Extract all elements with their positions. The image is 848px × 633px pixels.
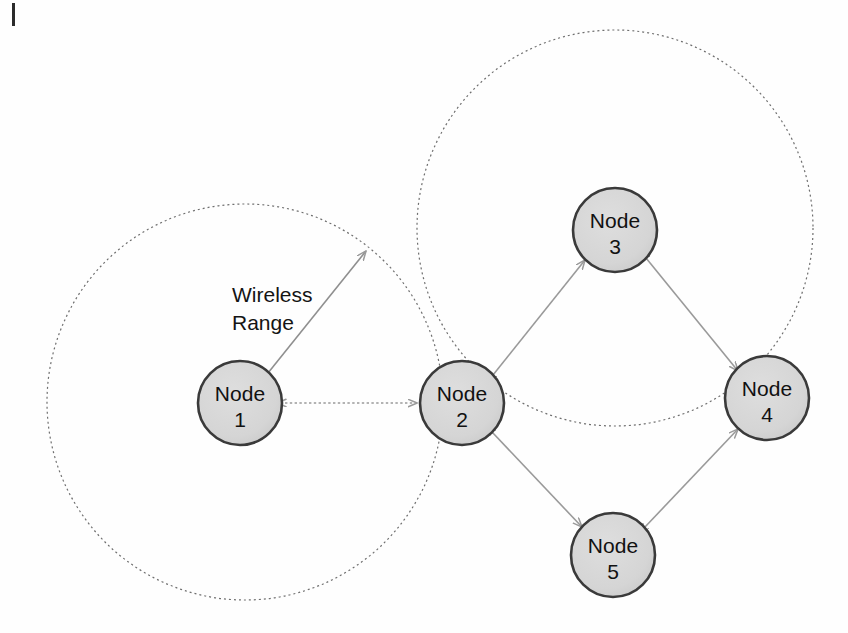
node-4[interactable]: Node 4 [725,356,809,440]
range-circle-group [47,30,813,600]
link-node-2-node-3 [493,260,585,375]
network-diagram: Wireless Range Node 1 Node 2 Node 3 [0,0,848,633]
link-node-2-node-5 [492,432,582,527]
figure-canvas: Wireless Range Node 1 Node 2 Node 3 [0,0,848,633]
node-3-number: 3 [609,235,621,258]
node-3-label: Node [590,209,641,232]
node-2-label: Node [437,382,488,405]
node-5-number: 5 [607,560,619,583]
node-1-label: Node [215,382,266,405]
node-4-label: Node [742,377,793,400]
node-4-number: 4 [761,403,773,426]
link-group [285,258,738,527]
node-1-number: 1 [234,408,246,431]
node-5[interactable]: Node 5 [571,513,655,597]
link-node-5-node-4 [645,429,738,527]
wireless-range-label-line-2: Range [232,311,294,334]
node-2-number: 2 [456,408,468,431]
node-group: Node 1 Node 2 Node 3 Node 4 Node [198,188,809,597]
node-5-label: Node [588,534,639,557]
wireless-range-label-line-1: Wireless [232,283,313,306]
wireless-range-annotation: Wireless Range [232,251,366,373]
node-1[interactable]: Node 1 [198,361,282,445]
page-edge-tick [12,3,15,26]
node-3[interactable]: Node 3 [573,188,657,272]
link-node-3-node-4 [646,258,738,371]
node-2[interactable]: Node 2 [420,361,504,445]
